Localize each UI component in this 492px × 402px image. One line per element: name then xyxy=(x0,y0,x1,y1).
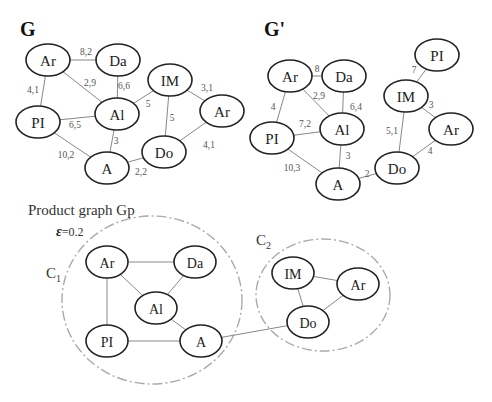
node-label: Do xyxy=(155,145,173,161)
node-label: PI xyxy=(101,335,114,350)
node-ar: Ar xyxy=(26,44,70,76)
node-al: Al xyxy=(135,292,177,324)
node-label: A xyxy=(196,335,207,350)
node-label: PI xyxy=(430,48,443,64)
node-label: A xyxy=(333,177,344,193)
graph-g-nodes: ArDaIMArPIAlADo xyxy=(16,44,244,184)
node-ar: Ar xyxy=(86,246,128,278)
edge-weight-label: 4 xyxy=(271,102,276,112)
cluster-c1-label: C1 xyxy=(46,265,61,284)
cluster-subscript: 2 xyxy=(266,240,271,251)
edge-weight-label: 3 xyxy=(346,151,351,161)
node-label: Ar xyxy=(40,53,56,69)
edge-weight-label: 3 xyxy=(114,136,119,146)
cluster-c2-label: C2 xyxy=(256,232,271,251)
node-ar2: Ar xyxy=(429,113,473,145)
node-label: IM xyxy=(284,267,302,282)
edge-weight-label: 8 xyxy=(315,64,320,74)
node-al: Al xyxy=(320,113,364,145)
node-im: IM xyxy=(148,64,192,96)
edge-weight-label: 2 xyxy=(365,169,370,179)
node-label: Al xyxy=(149,302,163,317)
cluster-letter: C xyxy=(46,265,56,281)
edge-weight-label: 10,2 xyxy=(58,150,75,160)
node-a: A xyxy=(85,152,129,184)
node-label: Al xyxy=(110,107,125,123)
edge-weight-label: 5 xyxy=(170,113,175,123)
node-label: Ar xyxy=(214,104,230,120)
node-label: Ar xyxy=(443,122,459,138)
edge-weight-label: 8,2 xyxy=(80,47,92,57)
node-label: Do xyxy=(299,316,316,331)
edge-weight-label: 10,3 xyxy=(284,163,301,173)
node-label: IM xyxy=(161,73,179,89)
node-do: Do xyxy=(375,152,419,184)
node-label: Do xyxy=(388,161,406,177)
node-label: Da xyxy=(187,256,204,271)
node-do: Do xyxy=(142,136,186,168)
node-al: Al xyxy=(95,98,139,130)
node-label: Ar xyxy=(282,69,298,85)
node-ar2: Ar xyxy=(337,268,379,300)
node-do: Do xyxy=(287,306,329,338)
edge-weight-label: 4 xyxy=(428,146,433,156)
graph-g-title: G xyxy=(20,18,36,40)
edge-weight-label: 3,1 xyxy=(201,83,213,93)
node-da: Da xyxy=(322,60,366,92)
product-graph: Product graph Gp ε=0.2 C1C2 ArDaAlPIAIMA… xyxy=(28,202,390,384)
node-label: PI xyxy=(31,115,44,131)
node-ar: Ar xyxy=(268,60,312,92)
epsilon-value: =0.2 xyxy=(62,225,84,239)
node-label: A xyxy=(102,161,113,177)
product-graph-clusters: C1C2 xyxy=(46,216,390,384)
edge-weight-label: 6,5 xyxy=(69,120,81,130)
node-da: Da xyxy=(96,44,140,76)
epsilon-label: ε=0.2 xyxy=(56,224,84,239)
node-label: Ar xyxy=(351,278,366,293)
node-label: Ar xyxy=(100,256,115,271)
node-label: Da xyxy=(109,53,127,69)
node-pi: PI xyxy=(16,106,60,138)
node-a: A xyxy=(180,325,222,357)
node-im: IM xyxy=(272,257,314,289)
graph-g-prime-nodes: PIArDaIMAlArPIDoA xyxy=(250,39,473,200)
diagram-canvas: G 8,22,96,64,16,553,15310,22,24,1 ArDaIM… xyxy=(0,0,492,402)
product-graph-caption: Product graph Gp xyxy=(28,202,135,218)
edge-weight-label: 5,1 xyxy=(386,126,398,136)
edge-weight-label: 4,1 xyxy=(203,140,215,150)
edge-weight-label: 7 xyxy=(412,65,417,75)
node-label: IM xyxy=(397,89,415,105)
node-a: A xyxy=(316,168,360,200)
graph-g: G 8,22,96,64,16,553,15310,22,24,1 ArDaIM… xyxy=(16,18,244,184)
edge-weight-label: 7,2 xyxy=(299,119,311,129)
edge-weight-label: 2,9 xyxy=(313,91,325,101)
edge-weight-label: 2,9 xyxy=(84,78,96,88)
cluster-subscript: 1 xyxy=(56,273,61,284)
node-pi: PI xyxy=(250,122,294,154)
edge-weight-label: 6,4 xyxy=(350,102,362,112)
graph-g-prime-title: G' xyxy=(264,18,285,40)
node-label: Da xyxy=(335,69,353,85)
edge-weight-label: 6,6 xyxy=(118,81,130,91)
edge-weight-label: 3 xyxy=(429,100,434,110)
node-pi2: PI xyxy=(415,39,459,71)
edge-weight-label: 5 xyxy=(146,99,151,109)
cluster-letter: C xyxy=(256,232,266,248)
node-da: Da xyxy=(174,246,216,278)
node-label: Al xyxy=(335,122,350,138)
node-label: PI xyxy=(265,131,278,147)
graph-g-prime: G' 82,96,447,210,332735,14 PIArDaIMAlArP… xyxy=(250,18,473,200)
edge-weight-label: 2,2 xyxy=(135,167,147,177)
edge-weight-label: 4,1 xyxy=(27,85,39,95)
node-ar2: Ar xyxy=(200,95,244,127)
node-im: IM xyxy=(384,80,428,112)
node-pi: PI xyxy=(86,325,128,357)
